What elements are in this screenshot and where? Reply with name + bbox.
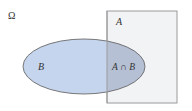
intersection-label: A ∩ B	[111, 62, 135, 72]
universe-label: Ω	[8, 10, 15, 21]
set-b-label: B	[38, 61, 44, 72]
set-a-label: A	[115, 16, 123, 27]
venn-diagram: Ω A B A ∩ B	[0, 0, 192, 111]
